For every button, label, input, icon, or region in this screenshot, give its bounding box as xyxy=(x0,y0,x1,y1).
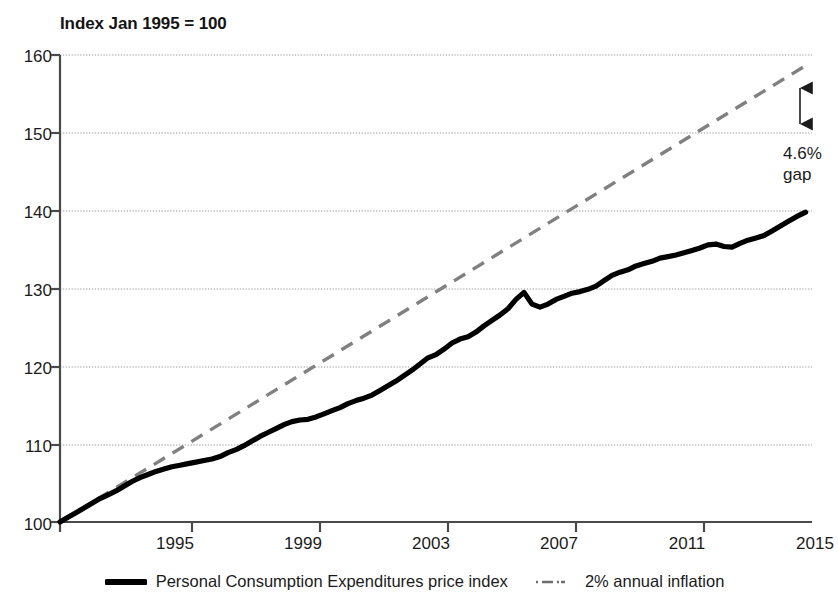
chart-legend: Personal Consumption Expenditures price … xyxy=(0,572,829,591)
plot-area xyxy=(0,0,829,575)
legend-label-pce: Personal Consumption Expenditures price … xyxy=(156,572,508,591)
legend-item-trend[interactable]: 2% annual inflation xyxy=(534,572,724,591)
gap-annotation-label: gap xyxy=(783,164,822,185)
y-axis-ticks xyxy=(51,55,60,522)
pce-price-index-line xyxy=(60,212,806,522)
legend-dash-dot-line-icon xyxy=(534,575,576,589)
x-axis-ticks xyxy=(60,522,704,532)
gap-annotation-percent: 4.6% xyxy=(783,143,822,164)
gap-annotation: 4.6% gap xyxy=(783,143,822,186)
legend-item-pce[interactable]: Personal Consumption Expenditures price … xyxy=(105,572,508,591)
legend-solid-line-icon xyxy=(105,575,147,589)
trend-line-2pct-inflation xyxy=(60,66,806,522)
legend-label-trend: 2% annual inflation xyxy=(585,572,724,591)
